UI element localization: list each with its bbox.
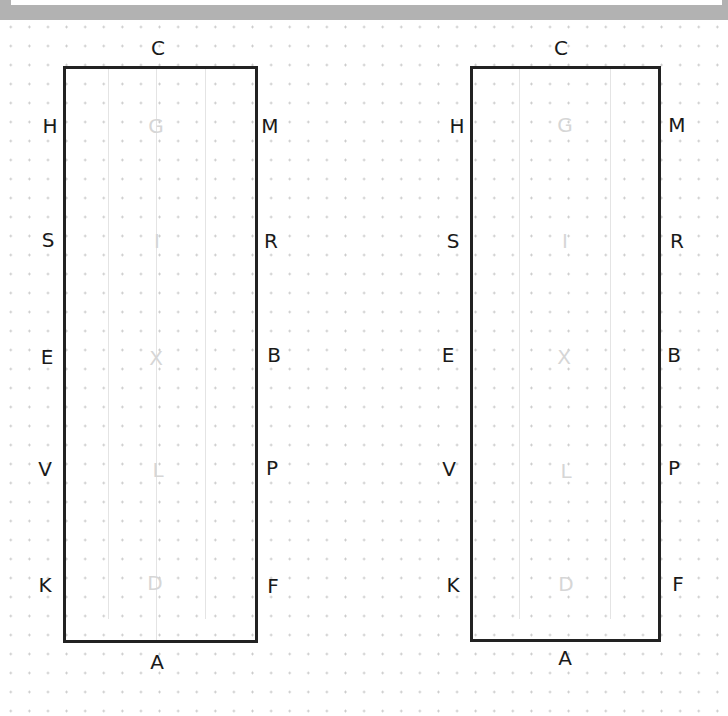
marker-v: V [442,459,456,479]
marker-k: K [38,575,51,595]
marker-p: P [266,458,278,478]
marker-d: D [147,573,162,593]
top-toolbar-band [0,5,728,20]
marker-m: M [261,116,278,136]
marker-r: R [264,231,278,251]
marker-h: H [42,116,57,136]
marker-r: R [670,231,684,251]
marker-d: D [558,574,573,594]
marker-s: S [447,231,460,251]
marker-s: S [42,230,55,250]
arena-left-quarter-line-1 [108,69,109,619]
marker-e: E [41,347,54,367]
marker-f: F [672,574,684,594]
marker-b: B [667,345,681,365]
marker-i: I [562,231,568,251]
marker-a: A [558,648,572,668]
marker-k: K [446,575,459,595]
marker-f: F [267,576,279,596]
marker-g: G [148,116,164,136]
top-band-corner-left [0,0,11,6]
marker-i: I [154,231,160,251]
marker-c: C [151,38,165,58]
marker-e: E [442,345,455,365]
marker-b: B [267,345,281,365]
top-band-corner-right [722,0,728,6]
marker-x: X [557,347,571,367]
marker-l: L [152,460,163,480]
marker-h: H [449,116,464,136]
arena-right-quarter-line-1 [519,69,520,619]
marker-v: V [38,459,52,479]
marker-x: X [149,348,163,368]
marker-l: L [560,461,571,481]
arena-right-quarter-line-2 [610,69,611,619]
marker-c: C [554,38,568,58]
arena-left-quarter-line-2 [205,69,206,619]
marker-m: M [668,115,685,135]
marker-a: A [150,652,164,672]
marker-g: G [557,115,573,135]
marker-p: P [668,458,680,478]
